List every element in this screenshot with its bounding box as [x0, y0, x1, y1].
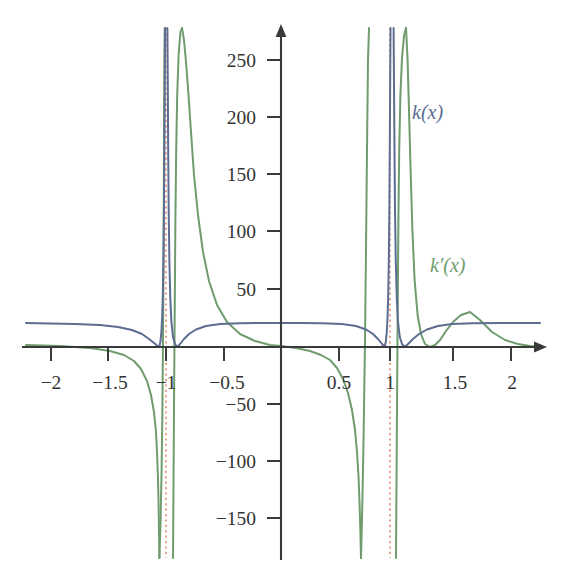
y-axis-arrow	[276, 24, 287, 37]
axes	[22, 24, 547, 560]
kprime-branch-left-pole-up	[173, 28, 182, 558]
series-label-kprime: k′(x)	[430, 254, 466, 277]
y-tick-labels: 250 200 150 100 50 −50 −100 −150	[216, 50, 256, 529]
y-tick-marks	[267, 60, 281, 518]
series-label-k: k(x)	[412, 101, 443, 124]
x-tick-label: −2	[41, 372, 62, 393]
y-tick-label: 200	[227, 107, 256, 128]
y-tick-label: 50	[237, 279, 257, 300]
x-axis-arrow	[534, 342, 547, 353]
kprime-branch-left-decay	[182, 28, 281, 346]
x-tick-label: −0.5	[209, 372, 244, 393]
x-tick-label: 2	[507, 372, 517, 393]
x-tick-label: −1	[156, 372, 177, 393]
function-plot: −2 −1.5 −1 −0.5 0.5 1 1.5 2 250 200 150 …	[0, 0, 562, 567]
y-tick-label: 150	[227, 164, 256, 185]
x-tick-label: 0.5	[327, 372, 351, 393]
kprime-branch-trough-right	[361, 28, 369, 558]
y-tick-label: −50	[226, 394, 257, 415]
x-tick-label: 1.5	[443, 372, 467, 393]
series-k	[26, 28, 540, 347]
kprime-branch-right-decay	[406, 28, 540, 347]
y-tick-label: 250	[227, 50, 256, 71]
x-tick-label: 1	[385, 372, 395, 393]
asymptote-group	[166, 28, 390, 558]
y-tick-label: −100	[216, 451, 256, 472]
plot-canvas: −2 −1.5 −1 −0.5 0.5 1 1.5 2 250 200 150 …	[0, 0, 562, 567]
series-kprime	[26, 28, 540, 558]
x-tick-label: −1.5	[92, 372, 127, 393]
y-tick-label: 100	[227, 221, 256, 242]
k-branch-center-right	[281, 323, 385, 347]
y-tick-label: −150	[216, 508, 256, 529]
x-tick-labels: −2 −1.5 −1 −0.5 0.5 1 1.5 2	[41, 372, 517, 393]
series-annotations: k(x) k′(x)	[412, 101, 466, 277]
k-branch-left-plateau	[26, 323, 159, 347]
